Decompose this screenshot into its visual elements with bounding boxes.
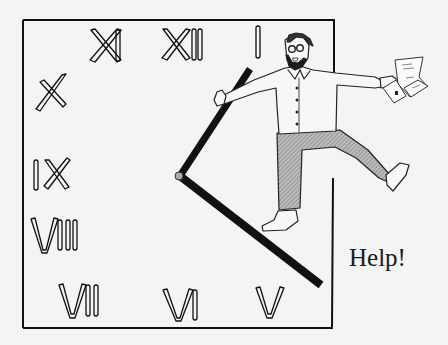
help-caption: Help! — [349, 244, 406, 272]
numeral-vi — [163, 289, 197, 321]
clock-illustration — [0, 0, 448, 345]
left-shoe — [262, 210, 298, 231]
numeral-xii — [162, 29, 202, 60]
numeral-i — [256, 26, 260, 58]
numeral-vii — [59, 284, 98, 318]
numeral-v — [256, 287, 284, 318]
hour-hand — [180, 69, 250, 176]
right-shoe — [386, 163, 409, 191]
bearded-man — [214, 33, 409, 231]
illustration: Help! — [0, 0, 448, 345]
hand-pivot — [175, 172, 183, 180]
left-hand — [214, 90, 226, 106]
numeral-x — [36, 74, 66, 111]
numeral-viii — [31, 218, 77, 253]
numeral-xi — [90, 29, 121, 62]
numeral-ix — [34, 158, 70, 190]
